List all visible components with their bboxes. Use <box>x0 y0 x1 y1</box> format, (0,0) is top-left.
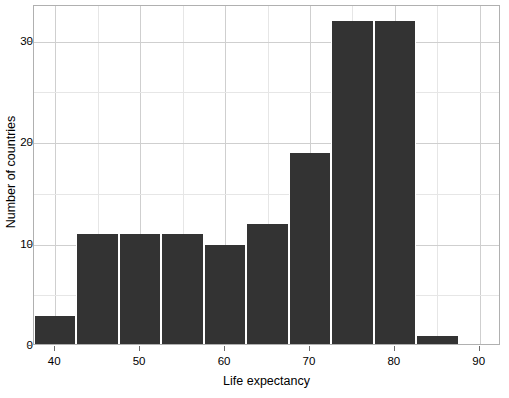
x-tick-label: 90 <box>459 355 499 367</box>
x-tick-mark <box>309 346 310 351</box>
x-tick-label: 70 <box>289 355 329 367</box>
x-tick-label: 60 <box>204 355 244 367</box>
x-tick-mark <box>224 346 225 351</box>
x-tick-mark <box>54 346 55 351</box>
x-tick-label: 80 <box>374 355 414 367</box>
x-tick-mark <box>394 346 395 351</box>
x-tick-label: 40 <box>34 355 74 367</box>
x-tick-label: 50 <box>119 355 159 367</box>
x-axis-label: Life expectancy <box>33 374 500 388</box>
histogram-figure: Number of countries 0102030 405060708090… <box>0 0 509 398</box>
x-tick-mark <box>139 346 140 351</box>
x-tick-mark <box>479 346 480 351</box>
x-axis-ticks: 405060708090 <box>0 0 509 398</box>
